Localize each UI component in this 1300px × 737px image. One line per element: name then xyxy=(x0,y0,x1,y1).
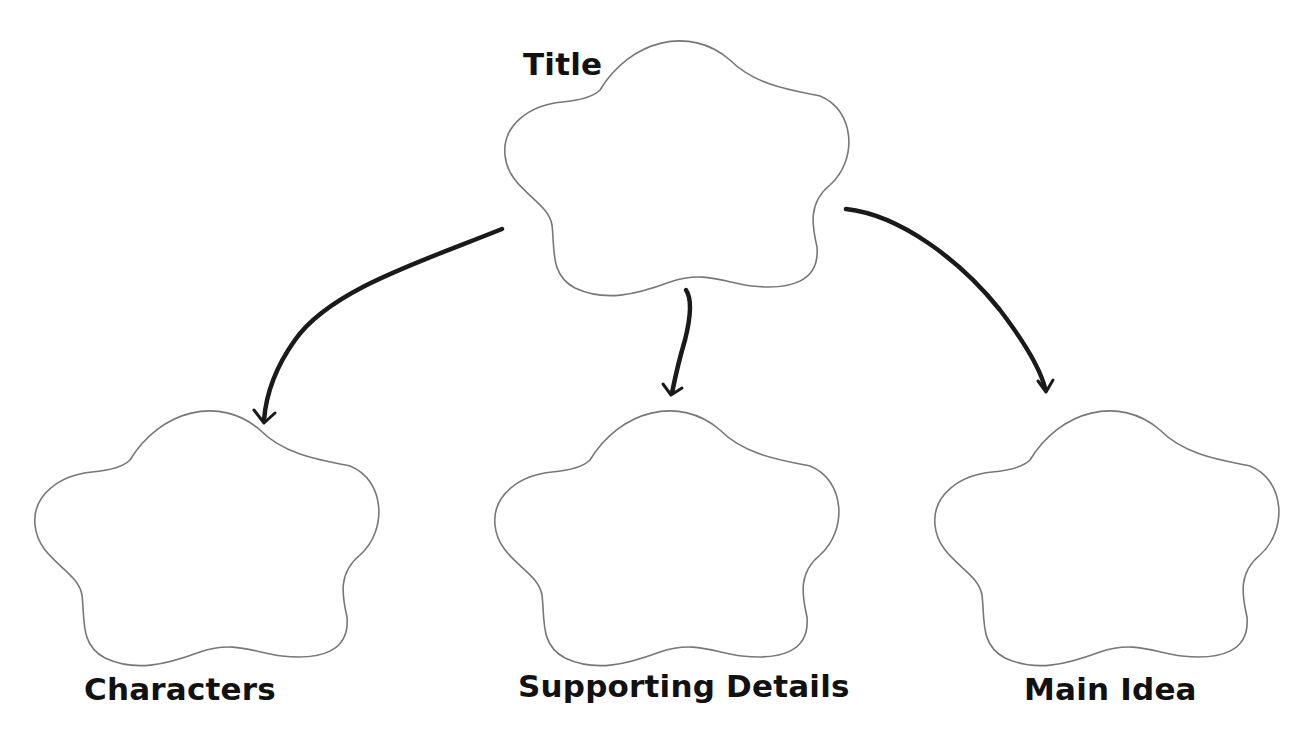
cloud-characters[interactable] xyxy=(35,411,379,666)
label-title: Title xyxy=(523,46,602,82)
label-main-idea: Main Idea xyxy=(1024,671,1197,707)
arrow-to-supporting-details-icon xyxy=(663,290,690,395)
label-characters: Characters xyxy=(84,671,276,707)
cloud-supporting-details[interactable] xyxy=(495,411,839,666)
cloud-main-idea[interactable] xyxy=(935,411,1279,666)
organizer-canvas xyxy=(0,0,1300,737)
arrow-to-characters-icon xyxy=(254,229,502,423)
label-supporting-details: Supporting Details xyxy=(518,668,850,704)
arrow-to-main-idea-icon xyxy=(846,209,1053,392)
